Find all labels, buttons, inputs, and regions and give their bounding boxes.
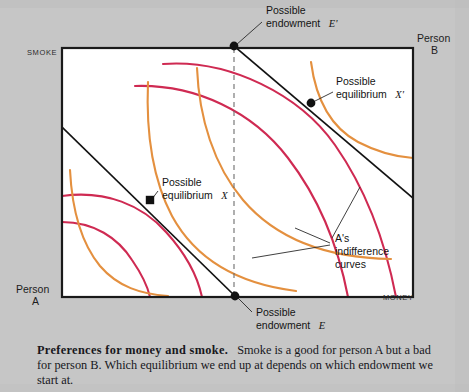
annotation-equilibrium-symbol: X	[220, 190, 228, 201]
annotation-indifference-line2: indifference	[335, 245, 389, 257]
annotation-endowment-line1: Possible	[256, 306, 296, 318]
annotation-indifference-line3: curves	[335, 258, 366, 270]
marker-equilibrium-x-prime[interactable]	[307, 99, 316, 108]
paper-top-band	[0, 0, 469, 8]
person-b-label-line1: Person	[417, 32, 450, 44]
figure-root: SMOKE MONEY Person B Person A Possible e…	[0, 0, 469, 392]
annotation-endowment-prime-line1: Possible	[266, 4, 306, 16]
annotation-endowment-line2: endowment	[256, 319, 310, 331]
annotation-endowment-symbol: E	[318, 320, 326, 331]
annotation-indifference-line1: A's	[335, 232, 349, 244]
annotation-endowment-prime-symbol: E'	[328, 18, 338, 29]
annotation-equilibrium-line1: Possible	[162, 176, 202, 188]
person-a-label-line1: Person	[16, 283, 49, 295]
annotation-equilibrium-line2: equilibrium	[162, 189, 213, 201]
edgeworth-box-figure: SMOKE MONEY Person B Person A Possible e…	[0, 0, 469, 392]
x-axis-label: MONEY	[383, 293, 414, 302]
marker-equilibrium-x[interactable]	[146, 196, 154, 204]
annotation-endowment-prime-line2: endowment	[266, 17, 320, 29]
annotation-equilibrium-prime-line2: equilibrium	[336, 88, 387, 100]
annotation-equilibrium-prime-symbol: X'	[394, 89, 404, 100]
person-b-label-line2: B	[431, 44, 438, 56]
paper-right-band	[455, 0, 469, 392]
marker-endowment-e[interactable]	[231, 292, 240, 301]
annotation-equilibrium-prime-line1: Possible	[336, 75, 376, 87]
caption-title: Preferences for money and smoke.	[37, 343, 228, 357]
person-a-label-line2: A	[32, 295, 39, 307]
marker-endowment-e-prime[interactable]	[230, 42, 239, 51]
figure-caption: Preferences for money and smoke.Smoke is…	[37, 343, 437, 389]
y-axis-label: SMOKE	[27, 48, 57, 57]
